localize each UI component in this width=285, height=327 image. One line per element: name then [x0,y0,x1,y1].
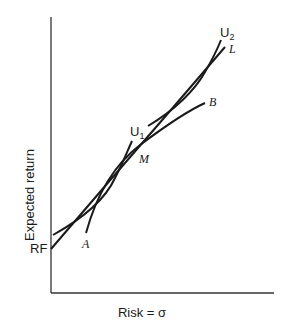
u1-label: U1 [130,124,144,141]
u2-label: U2 [220,25,234,42]
point-b-label: B [209,95,217,109]
point-a-label: A [81,237,90,251]
indifference-curve-u1 [53,141,132,235]
point-m-label: M [138,152,150,166]
rf-label: RF [30,241,47,256]
efficient-frontier-curve [86,103,205,233]
line-l-label: L [228,42,236,56]
risk-return-diagram: RF A B M L U1 U2 Risk = σ Expected retur… [0,0,285,327]
y-axis-label: Expected return [22,149,37,241]
x-axis-label: Risk = σ [118,305,166,320]
